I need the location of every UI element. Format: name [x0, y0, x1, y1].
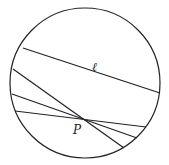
line-l-label: ℓ: [92, 60, 97, 74]
point-p-label: P: [72, 123, 82, 137]
diagram-canvas: ℓ P: [0, 0, 169, 165]
line-through-p-1: [13, 69, 124, 148]
